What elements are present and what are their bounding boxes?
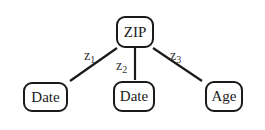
node-zip-label: ZIP (124, 25, 147, 40)
edge-label-z1: z1 (84, 49, 95, 65)
node-date-left-label: Date (31, 90, 59, 105)
node-zip: ZIP (116, 16, 154, 48)
node-age-label: Age (212, 89, 237, 104)
node-date-left: Date (23, 82, 68, 112)
edge-label-z2: z2 (116, 59, 127, 75)
node-date-middle-label: Date (120, 89, 148, 104)
edge-label-z3: z3 (170, 49, 181, 65)
node-date-middle: Date (113, 81, 155, 112)
node-age: Age (205, 81, 243, 112)
